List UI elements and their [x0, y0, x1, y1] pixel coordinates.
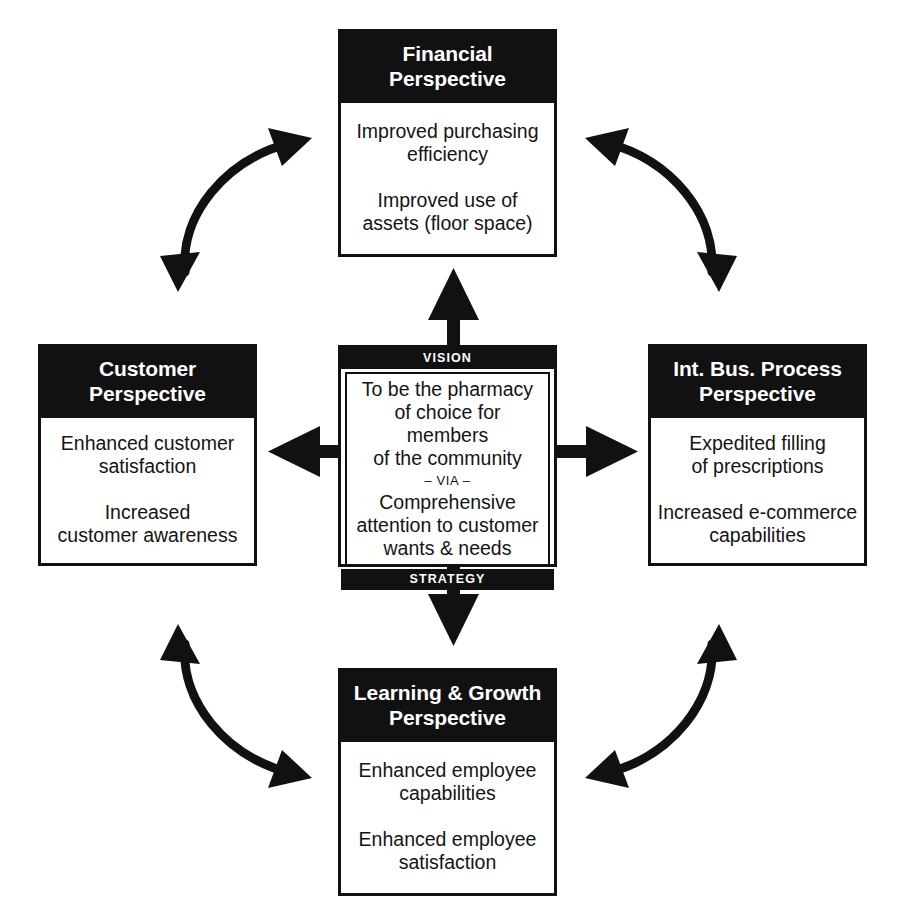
internal-business-process-perspective-body: Expedited filling of prescriptions Incre…: [651, 418, 864, 563]
financial-perspective-item-2: Improved use of assets (floor space): [347, 189, 548, 236]
learning-growth-perspective-body: Enhanced employee capabilities Enhanced …: [341, 742, 554, 893]
internal-business-process-perspective-title: Int. Bus. Process Perspective: [651, 347, 864, 418]
arrow-learning-growth-to-customer: [160, 624, 312, 788]
financial-perspective-title: Financial Perspective: [341, 32, 554, 103]
internal-business-process-perspective-item-2: Increased e-commerce capabilities: [657, 501, 858, 548]
arrow-internal-business-process-to-learning-growth: [585, 624, 737, 788]
vision-statement: To be the pharmacy of choice for members…: [352, 378, 543, 470]
financial-perspective-box: Financial Perspective Improved purchasin…: [338, 29, 557, 257]
internal-business-process-perspective-box: Int. Bus. Process Perspective Expedited …: [648, 344, 867, 566]
learning-growth-perspective-box: Learning & Growth Perspective Enhanced e…: [338, 668, 557, 896]
vision-strategy-center-box: VISION To be the pharmacy of choice for …: [338, 345, 557, 567]
arrow-center-to-financial: [428, 268, 479, 348]
via-separator-label: – VIA –: [424, 473, 470, 488]
arrow-center-to-internal-business-process: [556, 426, 638, 477]
strategy-band-label: STRATEGY: [341, 569, 554, 590]
vision-band-label: VISION: [341, 348, 554, 369]
balanced-scorecard-diagram: Financial Perspective Improved purchasin…: [0, 0, 897, 915]
learning-growth-perspective-item-2: Enhanced employee satisfaction: [347, 828, 548, 875]
internal-business-process-perspective-item-1: Expedited filling of prescriptions: [657, 432, 858, 479]
learning-growth-perspective-item-1: Enhanced employee capabilities: [347, 759, 548, 806]
arrow-customer-to-financial: [160, 128, 312, 292]
customer-perspective-title: Customer Perspective: [41, 347, 254, 418]
vision-strategy-content: To be the pharmacy of choice for members…: [345, 372, 550, 566]
customer-perspective-body: Enhanced customer satisfaction Increased…: [41, 418, 254, 563]
financial-perspective-body: Improved purchasing efficiency Improved …: [341, 103, 554, 254]
financial-perspective-item-1: Improved purchasing efficiency: [347, 120, 548, 167]
arrow-center-to-customer: [268, 426, 348, 477]
arrow-financial-to-internal-business-process: [585, 128, 737, 292]
learning-growth-perspective-title: Learning & Growth Perspective: [341, 671, 554, 742]
customer-perspective-box: Customer Perspective Enhanced customer s…: [38, 344, 257, 566]
strategy-statement: Comprehensive attention to customer want…: [356, 491, 538, 560]
customer-perspective-item-2: Increased customer awareness: [47, 501, 248, 548]
customer-perspective-item-1: Enhanced customer satisfaction: [47, 432, 248, 479]
